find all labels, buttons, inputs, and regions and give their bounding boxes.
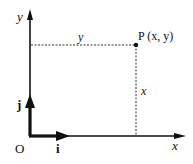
origin-label: O <box>15 141 24 156</box>
y-axis-label: y <box>15 9 23 24</box>
unit-vector-j-label: j <box>16 97 21 112</box>
horizontal-distance-label: y <box>77 30 84 44</box>
x-axis-label: x <box>171 138 178 153</box>
coordinate-diagram: y x P (x, y) y x j i O <box>0 0 193 164</box>
point-p <box>134 43 138 47</box>
i-arrowhead-icon <box>56 131 70 141</box>
unit-vector-i-label: i <box>56 141 60 156</box>
j-arrowhead-icon <box>25 94 35 108</box>
y-axis-arrowhead-icon <box>27 9 33 20</box>
vertical-distance-label: x <box>140 84 147 98</box>
point-label: P (x, y) <box>138 29 173 43</box>
